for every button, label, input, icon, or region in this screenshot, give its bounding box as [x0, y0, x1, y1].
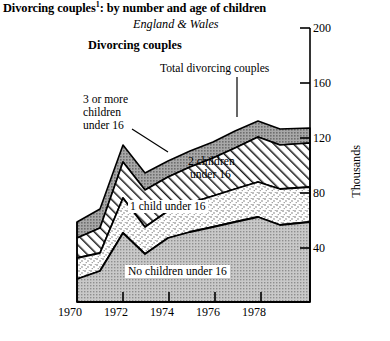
- annotation-one-child: 1 child under 16: [128, 200, 208, 213]
- annotation-no-children: No children under 16: [125, 265, 230, 278]
- x-tick-label-1974: 1974: [150, 305, 174, 320]
- y-tick-label-120: 120: [313, 131, 331, 146]
- annotation-two-line1: 2 children: [188, 155, 235, 168]
- annotation-two-children: 2 children under 16: [188, 155, 235, 181]
- x-tick-label-1978: 1978: [242, 305, 266, 320]
- annotation-three-line1: 3 or more: [83, 93, 128, 106]
- leader-line-three-or-more: [132, 129, 168, 152]
- y-axis-title: Thousands: [349, 145, 364, 198]
- y-tick-label-80: 80: [313, 186, 325, 201]
- annotation-total-divorcing-couples: Total divorcing couples: [160, 62, 269, 75]
- y-tick-label-40: 40: [313, 241, 325, 256]
- x-tick-label-1972: 1972: [104, 305, 128, 320]
- annotation-three-or-more-children: 3 or more children under 16: [83, 93, 128, 133]
- y-tick-label-200: 200: [313, 21, 331, 36]
- x-tick-label-1976: 1976: [196, 305, 220, 320]
- x-tick-label-1970: 1970: [58, 305, 82, 320]
- annotation-two-line2: under 16: [186, 168, 235, 181]
- chart-figure: Divorcing couples1: by number and age of…: [0, 0, 390, 341]
- annotation-three-line2: children: [83, 106, 121, 119]
- annotation-three-line3: under 16: [83, 119, 124, 132]
- y-tick-label-160: 160: [313, 76, 331, 91]
